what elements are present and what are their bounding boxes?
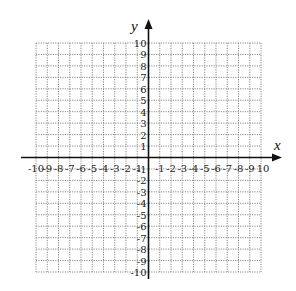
y-tick-label: -1	[137, 164, 147, 175]
y-tick-label: 4	[140, 107, 146, 118]
y-tick-label: 9	[140, 49, 146, 60]
x-axis-arrow-icon	[272, 154, 282, 162]
y-tick-label: 3	[140, 118, 146, 129]
y-tick-label: -6	[137, 221, 147, 232]
x-tick-label: -9	[42, 163, 52, 174]
x-tick-label: -9	[245, 163, 255, 174]
y-tick-label: 10	[134, 38, 147, 49]
x-tick-label: -5	[200, 163, 210, 174]
x-tick-label: -2	[121, 163, 131, 174]
x-tick-label: -6	[76, 163, 86, 174]
x-tick-label: -8	[54, 163, 64, 174]
x-tick-label: -7	[222, 163, 232, 174]
y-tick-label: -4	[137, 198, 147, 209]
x-axis-label: x	[273, 137, 281, 153]
y-tick-label: 8	[140, 61, 146, 72]
y-tick-label: 6	[140, 84, 146, 95]
y-tick-label: -8	[137, 244, 147, 255]
y-tick-label: -2	[137, 175, 147, 186]
y-tick-label: 2	[140, 130, 146, 141]
y-tick-label: 1	[140, 141, 146, 152]
y-axis-arrow-icon	[145, 19, 153, 29]
y-tick-label: -10	[130, 267, 146, 278]
x-tick-label: 10	[257, 163, 270, 174]
y-tick-label: -9	[137, 256, 147, 267]
x-tick-label: -5	[87, 163, 97, 174]
y-axis-label: y	[129, 18, 138, 34]
y-tick-label: -7	[137, 233, 147, 244]
x-tick-label: -3	[110, 163, 120, 174]
axes	[21, 19, 282, 279]
x-tick-label: -4	[99, 163, 109, 174]
x-tick-label: -6	[211, 163, 221, 174]
y-tick-label: -5	[137, 210, 147, 221]
coordinate-plane: -10-9-8-7-6-5-4-3-2-1-1-2-3-4-5-6-7-8-91…	[0, 0, 296, 291]
x-tick-label: -1	[155, 163, 165, 174]
x-tick-label: -3	[177, 163, 187, 174]
x-tick-label: -7	[65, 163, 75, 174]
y-tick-label: -3	[137, 187, 147, 198]
y-tick-label: 7	[140, 72, 146, 83]
y-tick-label: 5	[140, 95, 146, 106]
x-tick-label: -2	[166, 163, 176, 174]
x-tick-label: -4	[189, 163, 199, 174]
x-tick-label: -8	[234, 163, 244, 174]
